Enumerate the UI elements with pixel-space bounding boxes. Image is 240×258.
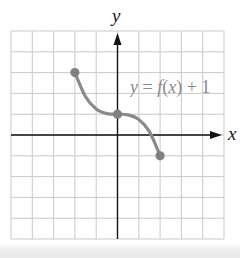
key-point-dot (70, 68, 79, 77)
curve-label-tail: + 1 (182, 77, 210, 97)
curve-label-arg: x (168, 77, 176, 97)
y-axis-arrow-icon (114, 33, 122, 45)
x-axis-label: x (228, 124, 236, 143)
curve-equation-label: y = f(x) + 1 (130, 75, 225, 99)
key-point-dot (113, 110, 122, 119)
x-axis-arrow-icon (210, 131, 222, 139)
coordinate-plane (0, 0, 240, 258)
chart-figure: y x y = f(x) + 1 (0, 0, 240, 258)
axes (11, 33, 222, 239)
y-axis-label: y (112, 6, 120, 25)
curve-label-var: y (130, 77, 138, 97)
key-point-dot (156, 151, 165, 160)
curve-label-eq: = (138, 77, 157, 97)
